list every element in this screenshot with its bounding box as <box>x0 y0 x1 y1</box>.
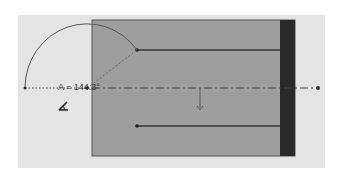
centerline-end-point[interactable] <box>316 86 320 90</box>
angle-dimension-label[interactable]: A = 144.3° <box>58 82 100 92</box>
centerline-start-point[interactable] <box>24 87 27 90</box>
lower-endpoint[interactable] <box>135 124 139 128</box>
angle-dimension-icon <box>59 102 68 110</box>
sketch-drawing[interactable] <box>0 0 339 174</box>
